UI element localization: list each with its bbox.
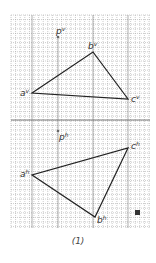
square-marker-icon [135,210,140,215]
figure-caption: (1) [0,236,156,246]
label-b-h: bh [97,214,107,225]
label-c-v: cv [131,93,140,104]
label-c-h: ch [131,140,140,151]
label-p-h: ph [58,131,69,142]
label-a-h: ah [20,168,30,179]
label-b-v: bv [88,40,98,51]
triangle-horizontal-view [32,148,128,217]
label-a-v: av [20,87,30,98]
projection-diagram: avbvcvpvahbhchph [0,0,156,263]
label-p-v: pv [55,25,66,36]
